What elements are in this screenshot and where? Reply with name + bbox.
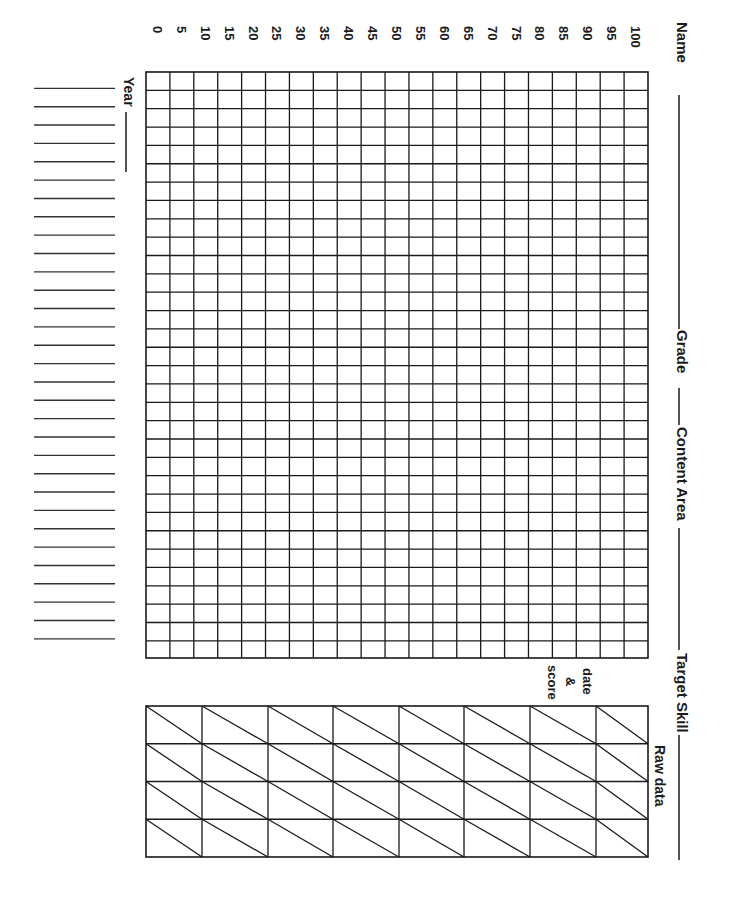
raw-data-cell[interactable] — [596, 744, 648, 782]
raw-data-title: Raw data — [652, 745, 668, 807]
date-caption: date — [580, 668, 595, 695]
raw-data-cell[interactable] — [268, 744, 333, 782]
raw-data-cell[interactable] — [333, 744, 399, 782]
session-date-lines[interactable] — [34, 88, 115, 639]
raw-data-cell[interactable] — [399, 782, 464, 820]
score-tick-label: 75 — [509, 26, 524, 40]
raw-data-cell[interactable] — [596, 782, 648, 820]
raw-data-cell[interactable] — [399, 744, 464, 782]
target-skill-label: Target Skill — [674, 653, 691, 733]
form-sheet: Name Grade Content Area Target Skill 051… — [0, 0, 735, 898]
raw-data-cell[interactable] — [202, 706, 268, 744]
grade-label: Grade — [674, 330, 691, 373]
score-tick-label: 70 — [485, 26, 500, 40]
raw-data-cell[interactable] — [202, 744, 268, 782]
score-tick-label: 15 — [222, 26, 237, 40]
raw-data-cell[interactable] — [146, 706, 202, 744]
raw-data-cell[interactable] — [464, 782, 530, 820]
raw-data-cell[interactable] — [268, 819, 333, 857]
score-caption: score — [545, 665, 560, 700]
score-tick-label: 5 — [174, 26, 189, 33]
raw-data-cell[interactable] — [530, 782, 596, 820]
score-tick-label: 25 — [269, 26, 284, 40]
progress-monitoring-form: Name Grade Content Area Target Skill 051… — [0, 0, 735, 898]
score-tick-label: 10 — [198, 26, 213, 40]
raw-data-cell[interactable] — [202, 782, 268, 820]
score-tick-label: 55 — [413, 26, 428, 40]
score-tick-label: 80 — [532, 26, 547, 40]
raw-data-cell[interactable] — [399, 819, 464, 857]
raw-data-cell[interactable] — [333, 706, 399, 744]
score-axis-ticks: 0510152025303540455055606570758085909510… — [150, 26, 643, 48]
raw-data-cell[interactable] — [399, 706, 464, 744]
header: Name Grade Content Area Target Skill — [674, 22, 691, 860]
raw-data-cell[interactable] — [202, 819, 268, 857]
score-tick-label: 65 — [461, 26, 476, 40]
raw-data-cell[interactable] — [596, 706, 648, 744]
score-tick-label: 45 — [365, 26, 380, 40]
raw-data-cell[interactable] — [268, 782, 333, 820]
score-tick-label: 60 — [437, 26, 452, 40]
score-graph-grid[interactable] — [146, 72, 648, 658]
raw-data-cell[interactable] — [596, 819, 648, 857]
raw-data-cell[interactable] — [146, 782, 202, 820]
score-tick-label: 30 — [293, 26, 308, 40]
year-label: Year — [121, 77, 137, 107]
score-tick-label: 100 — [628, 26, 643, 48]
raw-data-cell[interactable] — [464, 706, 530, 744]
ampersand-caption: & — [563, 677, 578, 686]
raw-data-cell[interactable] — [333, 782, 399, 820]
raw-data-cell[interactable] — [530, 744, 596, 782]
score-tick-label: 0 — [150, 26, 165, 33]
score-tick-label: 20 — [246, 26, 261, 40]
name-label: Name — [674, 22, 691, 63]
raw-data-cell[interactable] — [530, 706, 596, 744]
raw-data-cell[interactable] — [464, 819, 530, 857]
raw-data-cell[interactable] — [333, 819, 399, 857]
score-tick-label: 40 — [341, 26, 356, 40]
raw-data-cell[interactable] — [464, 744, 530, 782]
score-tick-label: 85 — [556, 26, 571, 40]
score-tick-label: 90 — [580, 26, 595, 40]
raw-data-cell[interactable] — [146, 744, 202, 782]
raw-data-cell[interactable] — [146, 819, 202, 857]
score-tick-label: 95 — [604, 26, 619, 40]
raw-data-cell[interactable] — [530, 819, 596, 857]
raw-data-cell[interactable] — [268, 706, 333, 744]
content-area-label: Content Area — [674, 427, 691, 521]
score-tick-label: 50 — [389, 26, 404, 40]
raw-data-grid[interactable] — [146, 706, 648, 857]
score-tick-label: 35 — [317, 26, 332, 40]
